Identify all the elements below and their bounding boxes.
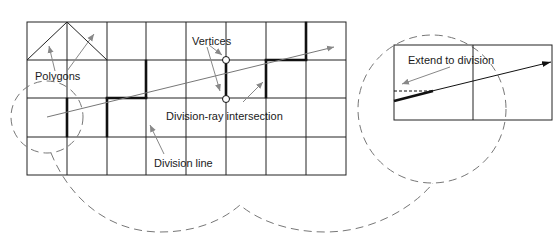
vertices-pointer-arrow [207, 47, 220, 91]
intersection-pointer-arrow [243, 82, 263, 102]
inset-bold-segment [394, 91, 433, 101]
division-line-label: Division line [154, 157, 213, 169]
division-line-pointer-arrow [150, 125, 164, 154]
polygons-pointer-arrow [67, 34, 94, 71]
vertex-marker [223, 57, 230, 64]
callout-connector [51, 153, 433, 232]
extend-to-division-label: Extend to division [408, 54, 494, 66]
vertices-label: Vertices [192, 35, 232, 47]
polygons-label: Polygons [35, 70, 81, 82]
division-ray-intersection-label: Division-ray intersection [166, 110, 283, 122]
extend-pointer-arrow [402, 67, 450, 84]
vertex-marker [223, 96, 230, 103]
polygons-pointer-arrow [49, 46, 55, 71]
ray-arrow [47, 47, 334, 117]
inset-ray-arrow [432, 62, 551, 91]
pointer-arrows [49, 34, 263, 154]
main-grid [27, 22, 346, 175]
division-ray-diagram: Polygons Vertices Division-ray intersect… [0, 0, 560, 242]
